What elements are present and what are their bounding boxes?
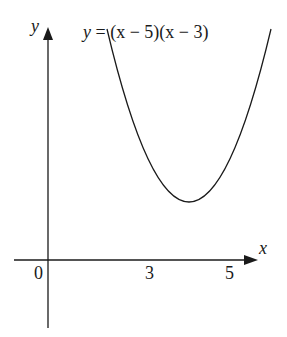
- y-axis-arrow-icon: [43, 27, 53, 40]
- y-axis-label: y: [29, 16, 39, 36]
- equation-label: y = (x − 5)(x − 3): [81, 22, 208, 43]
- x-axis-arrow-icon: [244, 255, 258, 265]
- parabola-graph: y x 0 3 5 y = (x − 5)(x − 3): [0, 0, 287, 337]
- root-label-5: 5: [225, 263, 234, 283]
- x-axis-label: x: [258, 238, 267, 258]
- parabola-curve: [107, 29, 271, 202]
- origin-label: 0: [34, 263, 43, 283]
- root-label-3: 3: [145, 263, 154, 283]
- equation-rest: = (x − 5)(x − 3): [91, 22, 208, 43]
- equation-y: y: [81, 22, 91, 42]
